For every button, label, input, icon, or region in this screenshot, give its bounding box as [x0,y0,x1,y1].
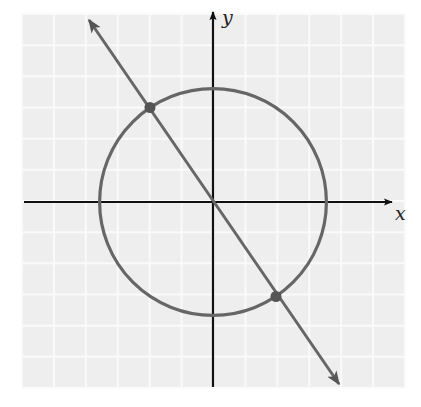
intersection-point [145,102,156,113]
coordinate-plane-figure: x y [0,0,421,407]
x-axis-label: x [395,202,406,224]
intersection-point [271,291,282,302]
y-axis-label: y [221,6,233,28]
